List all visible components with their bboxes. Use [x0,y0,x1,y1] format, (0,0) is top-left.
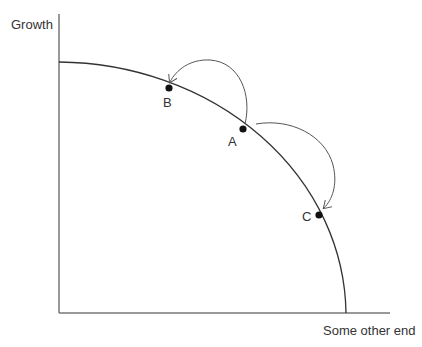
point-c-label: C [302,209,311,224]
arrow-a-to-b [170,60,247,124]
point-a-label: A [228,134,237,149]
point-a [239,125,246,132]
ppf-diagram: Growth Some other end B A C [0,0,422,347]
point-b [165,84,172,91]
frontier-curve [59,62,346,313]
arrow-a-to-c [256,123,335,208]
x-axis-label: Some other end [323,323,416,338]
point-b-label: B [163,95,172,110]
point-c [315,211,322,218]
y-axis-label: Growth [11,17,53,32]
